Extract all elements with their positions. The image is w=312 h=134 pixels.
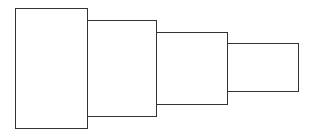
rectangle-4 — [227, 43, 299, 92]
rectangle-3 — [156, 32, 228, 105]
rectangle-1 — [15, 8, 88, 129]
rectangle-2 — [86, 20, 157, 117]
